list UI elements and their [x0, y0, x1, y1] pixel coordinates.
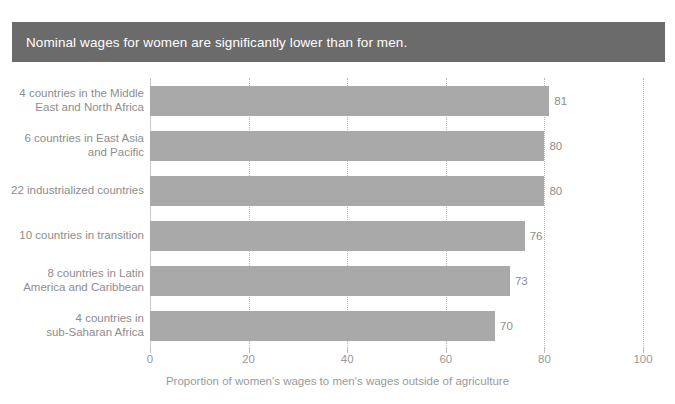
bar-value-label: 80 — [549, 131, 562, 161]
category-label: 6 countries in East Asia and Pacific — [2, 132, 144, 159]
bar[interactable] — [150, 176, 544, 206]
bar-value-label: 70 — [500, 311, 513, 341]
chart-container: Nominal wages for women are significantl… — [0, 0, 675, 404]
x-axis-title: Proportion of women's wages to men's wag… — [0, 375, 675, 387]
chart-title: Nominal wages for women are significantl… — [26, 35, 407, 50]
gridline-40 — [347, 78, 348, 348]
gridline-80 — [544, 78, 545, 348]
bar-value-label: 76 — [530, 221, 543, 251]
bar[interactable] — [150, 86, 549, 116]
gridline-20 — [249, 78, 250, 348]
category-label: 4 countries in sub-Saharan Africa — [2, 312, 144, 339]
bar-value-label: 73 — [515, 266, 528, 296]
bar[interactable] — [150, 266, 510, 296]
category-label: 22 industrialized countries — [2, 184, 144, 198]
gridline-100 — [643, 78, 644, 348]
chart-title-banner: Nominal wages for women are significantl… — [12, 22, 665, 62]
x-tick-label-40: 40 — [327, 353, 367, 365]
x-tick-label-100: 100 — [623, 353, 663, 365]
x-tick-label-60: 60 — [426, 353, 466, 365]
category-label: 4 countries in the Middle East and North… — [2, 87, 144, 114]
x-tick-label-80: 80 — [524, 353, 564, 365]
bar[interactable] — [150, 221, 525, 251]
x-tick-label-20: 20 — [229, 353, 269, 365]
bar[interactable] — [150, 311, 495, 341]
x-tick-label-0: 0 — [130, 353, 170, 365]
gridline-60 — [446, 78, 447, 348]
bar[interactable] — [150, 131, 544, 161]
bar-value-label: 80 — [549, 176, 562, 206]
plot-area: 818080767370 — [150, 78, 643, 348]
category-label: 8 countries in Latin America and Caribbe… — [2, 267, 144, 294]
bar-value-label: 81 — [554, 86, 567, 116]
gridline-0 — [150, 78, 151, 348]
category-label: 10 countries in transition — [2, 229, 144, 243]
